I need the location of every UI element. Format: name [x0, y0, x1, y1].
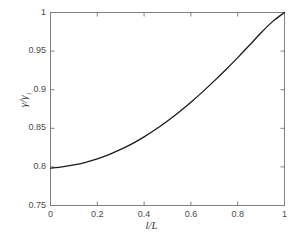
y-axis-label: γ/γ1: [17, 80, 32, 120]
x-tick-label: 0: [31, 210, 71, 219]
figure-canvas: 0.750.80.850.90.951 00.20.40.60.81 l/L γ…: [0, 0, 303, 241]
x-tick-label: 0.6: [171, 210, 211, 219]
x-tick-label: 0.4: [124, 210, 164, 219]
x-tick-label: 0.2: [77, 210, 117, 219]
x-tick-label: 1: [265, 210, 304, 219]
x-tick-marks: [51, 13, 285, 206]
y-tick-label: 0.8: [10, 162, 46, 171]
x-axis-label: l/L: [0, 219, 303, 231]
y-axis-label-base: γ/γ: [17, 95, 29, 107]
data-series-line: [51, 13, 285, 169]
axes-frame: [51, 13, 285, 206]
y-tick-label: 0.95: [10, 46, 46, 55]
y-tick-label: 1: [10, 8, 46, 17]
y-tick-label: 0.75: [10, 201, 46, 210]
y-tick-marks: [51, 13, 285, 206]
y-tick-label: 0.85: [10, 123, 46, 132]
y-axis-label-subscript: 1: [25, 92, 33, 96]
x-tick-label: 0.8: [218, 210, 258, 219]
